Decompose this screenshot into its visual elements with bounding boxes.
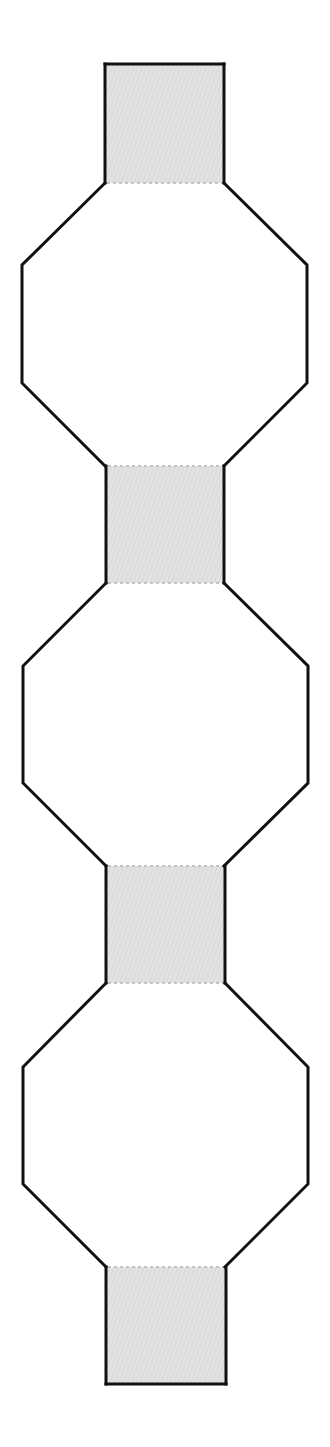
tab-2	[106, 466, 224, 583]
tab-4	[106, 1267, 226, 1384]
outline	[22, 64, 308, 1384]
octagon-2-left-side	[23, 583, 106, 866]
octagon-1-left-side	[22, 183, 105, 466]
octagon-3-left-side	[23, 983, 106, 1267]
octagon-3-right-side	[225, 983, 308, 1267]
shaded-tabs	[105, 64, 226, 1384]
net-diagram	[0, 0, 330, 1447]
octagon-1-right-side	[224, 183, 307, 466]
tab-1	[105, 64, 224, 183]
tab-3	[106, 866, 225, 983]
fold-lines	[107, 183, 224, 1267]
octagon-2-right-side	[224, 583, 308, 866]
